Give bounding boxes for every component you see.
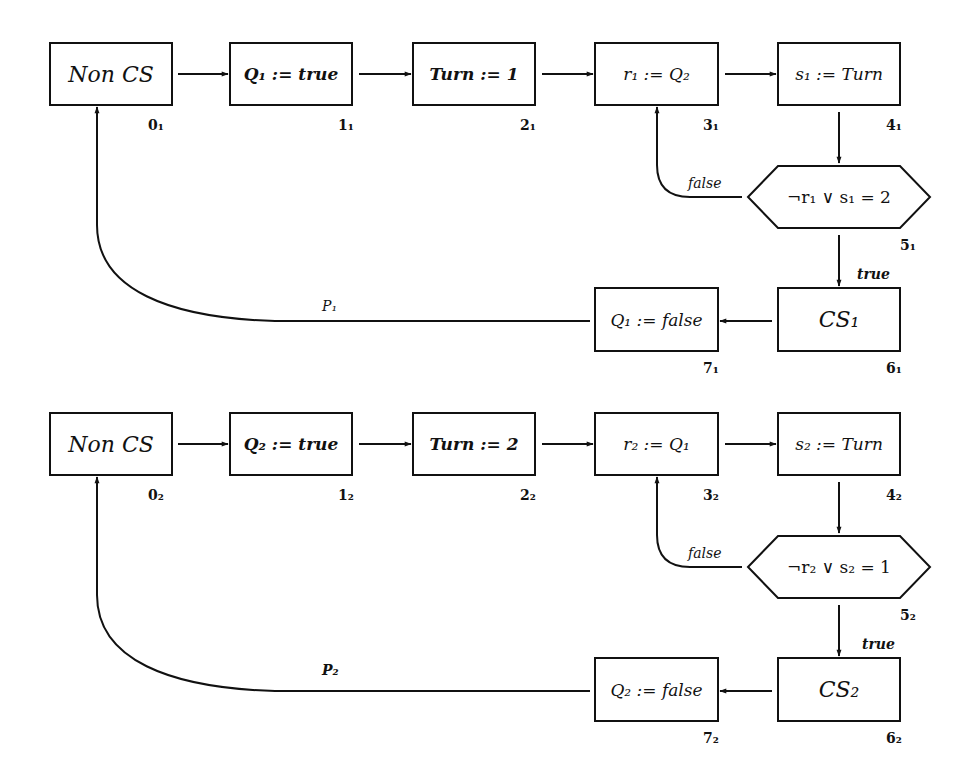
loc-label-7-2: 7₂	[703, 730, 719, 746]
loc-label-2-1: 2₁	[520, 117, 536, 133]
node-noncs-1: Non CS	[50, 43, 172, 105]
edge-label-true-1: true	[857, 266, 890, 282]
edge-label-false-1: false	[688, 175, 721, 191]
node-condition-1: ¬r₁ ∨ s₁ = 2	[760, 166, 918, 228]
node-cs-2: CS₂	[778, 658, 900, 721]
loc-label-0-2: 0₂	[148, 487, 164, 503]
loc-label-1-2: 1₂	[338, 487, 354, 503]
node-q-true-2: Q₂ := true	[230, 413, 352, 475]
node-q-false-1: Q₁ := false	[595, 288, 718, 351]
loc-label-6-1: 6₁	[886, 360, 902, 376]
edge-label-false-2: false	[688, 545, 721, 561]
loc-label-5-2: 5₂	[900, 607, 916, 623]
loc-label-7-1: 7₁	[703, 360, 719, 376]
edge-label-true-2: true	[862, 636, 895, 652]
node-s-assign-2: s₂ := Turn	[778, 413, 900, 475]
loc-label-0-1: 0₁	[148, 117, 164, 133]
loc-label-3-1: 3₁	[703, 117, 719, 133]
loc-label-2-2: 2₂	[520, 487, 536, 503]
node-turn-assign-2: Turn := 2	[413, 413, 535, 475]
edge-label-path-p2: P₂	[322, 662, 339, 678]
node-q-false-2: Q₂ := false	[595, 658, 718, 721]
node-r-assign-2: r₂ := Q₁	[595, 413, 718, 475]
node-cs-1: CS₁	[778, 288, 900, 351]
loc-label-3-2: 3₂	[703, 487, 719, 503]
loc-label-1-1: 1₁	[338, 117, 354, 133]
loc-label-4-1: 4₁	[886, 117, 902, 133]
node-s-assign-1: s₁ := Turn	[778, 43, 900, 105]
loc-label-6-2: 6₂	[886, 730, 902, 746]
loc-label-5-1: 5₁	[900, 237, 916, 253]
node-noncs-2: Non CS	[50, 413, 172, 475]
edge-label-path-p1: P₁	[322, 298, 337, 314]
node-q-true-1: Q₁ := true	[230, 43, 352, 105]
node-turn-assign-1: Turn := 1	[413, 43, 535, 105]
node-r-assign-1: r₁ := Q₂	[595, 43, 718, 105]
node-condition-2: ¬r₂ ∨ s₂ = 1	[760, 536, 918, 598]
loc-label-4-2: 4₂	[886, 487, 902, 503]
